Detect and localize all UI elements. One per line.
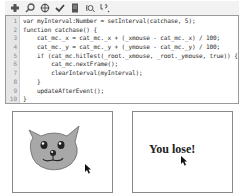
line-number: 3 (6, 34, 19, 43)
find-button[interactable] (24, 3, 35, 14)
stage-frame-cat (12, 111, 113, 193)
check-icon (55, 3, 65, 13)
search-icon (25, 3, 35, 13)
code-text-area[interactable]: var myInterval:Number = setInterval(catc… (20, 16, 238, 103)
code-line: } (23, 78, 238, 87)
code-line: updateAfterEvent(); (23, 87, 238, 96)
mouse-pointer-icon (85, 164, 92, 174)
line-number: 4 (6, 43, 19, 52)
line-number: 2 (6, 26, 19, 35)
script-editor[interactable]: 1 2 3 4 5 6 7 8 9 10 var myInterval:Numb… (5, 15, 239, 104)
check-syntax-button[interactable] (54, 3, 65, 14)
line-number: 10 (6, 95, 19, 104)
plus-icon (10, 3, 20, 13)
line-number: 7 (6, 69, 19, 78)
cat-face-icon (25, 122, 83, 172)
code-line: } (23, 95, 238, 104)
code-line: function catchase() { (23, 26, 238, 35)
line-number: 6 (6, 60, 19, 69)
stage-frame-lose: You lose! (132, 111, 233, 193)
code-line: cat_mc.nextFrame(); (23, 60, 238, 69)
actions-toolbar (5, 1, 239, 15)
code-line: if (cat_mc.hitTest(_root._xmouse, _root.… (23, 52, 238, 61)
debug-icon (85, 3, 95, 13)
target-path-button[interactable] (39, 3, 50, 14)
code-line: clearInterval(myInterval); (23, 69, 238, 78)
code-hint-icon (100, 3, 110, 13)
line-number: 1 (6, 17, 19, 26)
you-lose-message: You lose! (149, 142, 195, 157)
code-line: cat_mc._x = cat_mc._x + (_xmouse - cat_m… (23, 34, 238, 43)
add-statement-button[interactable] (9, 3, 20, 14)
format-icon (70, 3, 80, 13)
line-number: 5 (6, 52, 19, 61)
target-icon (40, 3, 50, 13)
mouse-pointer-icon (181, 156, 188, 166)
debug-options-button[interactable] (84, 3, 95, 14)
code-line: cat_mc._y = cat_mc._y + (_ymouse - cat_m… (23, 43, 238, 52)
show-code-hint-button[interactable] (99, 3, 110, 14)
auto-format-button[interactable] (69, 3, 80, 14)
line-number: 9 (6, 87, 19, 96)
line-number-gutter: 1 2 3 4 5 6 7 8 9 10 (6, 16, 20, 103)
line-number: 8 (6, 78, 19, 87)
code-line: var myInterval:Number = setInterval(catc… (23, 17, 238, 26)
